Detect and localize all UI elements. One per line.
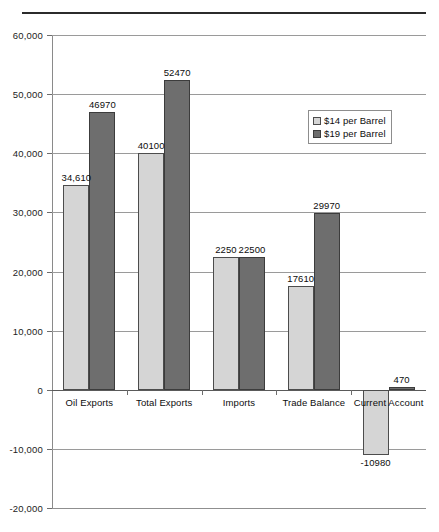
category-label: Oil Exports (52, 397, 127, 408)
y-tick-mark (47, 94, 52, 95)
y-tick-mark (47, 331, 52, 332)
bar (164, 80, 190, 390)
y-tick-mark (47, 153, 52, 154)
category-label: Imports (202, 397, 277, 408)
y-tick-mark (47, 272, 52, 273)
bar (314, 213, 340, 390)
x-tick-mark (276, 390, 277, 395)
bar-value-label: 46970 (77, 99, 127, 110)
bar-value-label: 470 (377, 374, 427, 385)
category-label: Total Exports (127, 397, 202, 408)
gridline (52, 35, 426, 36)
y-tick-label: 10,000 (13, 325, 43, 336)
y-tick-label: 50,000 (13, 89, 43, 100)
bar-value-label: 22500 (227, 244, 277, 255)
bar-value-label: 34,610 (51, 172, 101, 183)
bar-value-label: 17610 (276, 273, 326, 284)
y-tick-mark (47, 212, 52, 213)
plot-area: 60,00050,00040,00030,00020,00010,0000-10… (52, 35, 426, 508)
y-tick-mark (47, 390, 52, 391)
legend-item-series-1: $14 per Barrel (313, 114, 386, 127)
y-tick-mark (47, 35, 52, 36)
y-tick-label: 20,000 (13, 266, 43, 277)
legend-swatch-dark-icon (313, 130, 321, 138)
bar (213, 257, 239, 390)
x-tick-mark (351, 390, 352, 395)
bar-value-label: 52470 (152, 67, 202, 78)
x-tick-mark (202, 390, 203, 395)
legend-label-series-2: $19 per Barrel (324, 128, 386, 139)
bar (389, 387, 415, 390)
y-tick-label: 30,000 (13, 207, 43, 218)
category-label: Trade Balance (276, 397, 351, 408)
legend-item-series-2: $19 per Barrel (313, 127, 386, 140)
bar-value-label: 40100 (126, 140, 176, 151)
y-tick-label: -10,000 (9, 443, 43, 454)
bar (239, 257, 265, 390)
y-tick-mark (47, 508, 52, 509)
top-divider (22, 12, 426, 14)
y-tick-mark (47, 449, 52, 450)
legend-label-series-1: $14 per Barrel (324, 115, 386, 126)
y-tick-label: 0 (38, 384, 43, 395)
bar (89, 112, 115, 390)
chart-legend: $14 per Barrel $19 per Barrel (308, 110, 392, 144)
bar-chart: 60,00050,00040,00030,00020,00010,0000-10… (0, 0, 439, 532)
y-tick-label: 60,000 (13, 30, 43, 41)
category-label: Current Account (351, 397, 426, 408)
gridline (52, 94, 426, 95)
bar (288, 286, 314, 390)
x-tick-mark (127, 390, 128, 395)
bar-value-label: 29970 (302, 200, 352, 211)
gridline (52, 508, 426, 509)
bar (138, 153, 164, 390)
y-tick-label: -20,000 (9, 503, 43, 514)
y-tick-label: 40,000 (13, 148, 43, 159)
bar (63, 185, 89, 390)
bar-value-label: -10980 (351, 457, 401, 468)
legend-swatch-light-icon (313, 117, 321, 125)
